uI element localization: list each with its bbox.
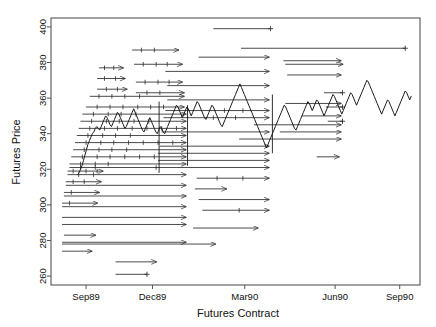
x-tick-label: Dec89: [139, 291, 166, 302]
y-tick-label: 380: [37, 55, 48, 71]
x-tick-label: Jun90: [322, 291, 348, 302]
futures-contract-chart-figure: 260280300320340360380400 Sep89Dec89Mar90…: [0, 0, 436, 327]
y-tick-label: 320: [37, 161, 48, 177]
x-tick-label: Sep89: [72, 291, 99, 302]
plot-background: [0, 0, 436, 327]
y-tick-label: 340: [37, 126, 48, 142]
y-axis-title: Futures Price: [10, 119, 22, 184]
y-tick-label: 360: [37, 90, 48, 106]
x-tick-label: Sep90: [386, 291, 413, 302]
x-tick-label: Mar90: [231, 291, 258, 302]
y-tick-label: 280: [37, 233, 48, 249]
y-tick-label: 260: [37, 268, 48, 284]
y-tick-label: 300: [37, 197, 48, 213]
y-tick-label: 400: [37, 19, 48, 35]
x-axis-title: Futures Contract: [197, 307, 279, 319]
chart-canvas: 260280300320340360380400 Sep89Dec89Mar90…: [0, 0, 436, 327]
